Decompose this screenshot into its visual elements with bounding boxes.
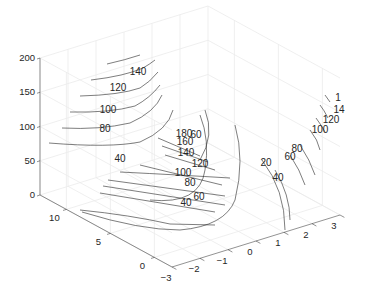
contour-label: 14 bbox=[333, 104, 345, 115]
contour-label: 120 bbox=[323, 114, 340, 125]
z-tick bbox=[37, 195, 40, 196]
z-tick-label: 50 bbox=[24, 155, 35, 166]
z-tick bbox=[37, 127, 40, 128]
y-tick bbox=[63, 209, 66, 210]
grid-line bbox=[208, 6, 340, 78]
grid-line bbox=[96, 178, 228, 250]
z-tick bbox=[37, 161, 40, 162]
grid-line bbox=[208, 40, 340, 112]
contour-label: 20 bbox=[260, 157, 272, 168]
contour-label: 1 bbox=[335, 92, 341, 103]
x-tick-label: 3 bbox=[331, 220, 336, 231]
contour-label: 120 bbox=[110, 82, 127, 93]
x-tick-label: 2 bbox=[303, 229, 308, 240]
contour3d-plot: −3−2−101230510050100150200 1401201008040… bbox=[0, 0, 368, 287]
y-tick-label: 5 bbox=[96, 236, 101, 247]
z-tick-label: 200 bbox=[19, 52, 35, 63]
x-tick-label: −3 bbox=[161, 272, 172, 283]
contour-label: 40 bbox=[272, 172, 284, 183]
z-tick-label: 150 bbox=[19, 86, 35, 97]
x-tick-label: 1 bbox=[275, 237, 280, 248]
contour-line bbox=[103, 186, 225, 205]
contour-line bbox=[325, 95, 330, 102]
x-tick-label: −1 bbox=[217, 255, 228, 266]
contour-label: 100 bbox=[312, 124, 329, 135]
grid-line bbox=[208, 75, 340, 147]
z-tick bbox=[37, 58, 40, 59]
contour-label: 40 bbox=[114, 153, 126, 164]
x-tick bbox=[228, 250, 232, 252]
x-tick bbox=[284, 232, 288, 234]
contour-label: 120 bbox=[192, 158, 209, 169]
x-tick bbox=[312, 224, 316, 226]
contour-label: 80 bbox=[99, 123, 111, 134]
z-tick bbox=[37, 92, 40, 93]
y-tick bbox=[107, 233, 110, 234]
grid-line bbox=[154, 205, 322, 257]
contour-label: 140 bbox=[178, 147, 195, 158]
grid-line bbox=[208, 109, 340, 181]
contour-label: 60 bbox=[193, 191, 205, 202]
contour-label: 100 bbox=[100, 104, 117, 115]
contour-label: 80 bbox=[291, 143, 303, 154]
grid-line bbox=[40, 161, 172, 233]
contour-label: 80 bbox=[184, 177, 196, 188]
contour-line bbox=[262, 160, 285, 230]
contour-labels: 1401201008040180601601401201008060402040… bbox=[99, 66, 345, 208]
x-tick bbox=[340, 215, 344, 217]
grid-line bbox=[152, 160, 284, 232]
x-tick-label: −2 bbox=[189, 263, 200, 274]
z-tick-label: 100 bbox=[19, 121, 35, 132]
x-tick-label: 0 bbox=[247, 246, 252, 257]
x-tick bbox=[200, 258, 204, 260]
x-tick bbox=[256, 241, 260, 243]
y-tick-label: 0 bbox=[140, 260, 145, 271]
contour-label: 140 bbox=[130, 66, 147, 77]
contour-label: 160 bbox=[177, 136, 194, 147]
y-axis bbox=[40, 195, 172, 267]
y-tick-label: 10 bbox=[49, 212, 60, 223]
x-tick bbox=[172, 267, 176, 269]
z-tick-label: 0 bbox=[30, 189, 35, 200]
contour-label: 40 bbox=[180, 197, 192, 208]
y-tick bbox=[151, 257, 154, 258]
